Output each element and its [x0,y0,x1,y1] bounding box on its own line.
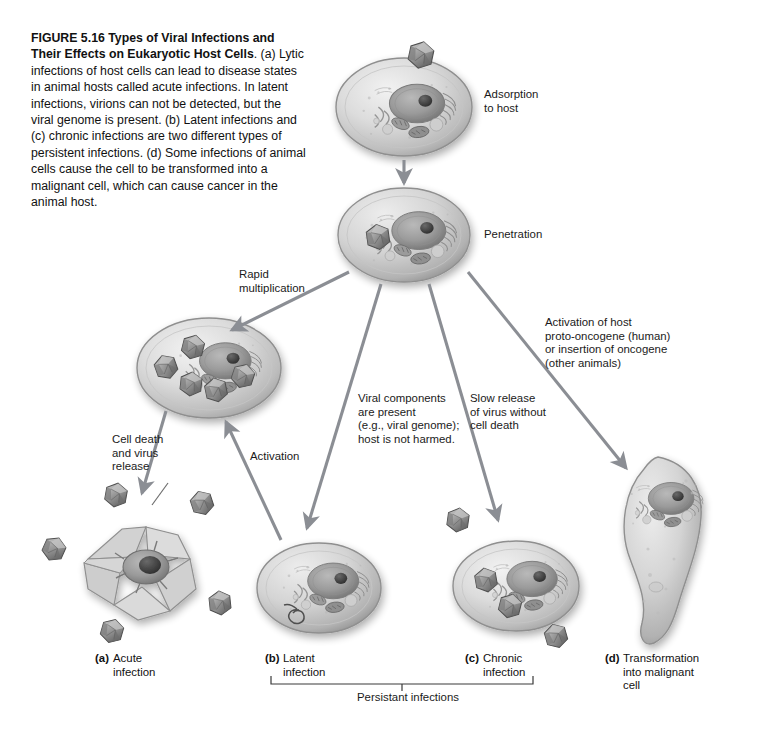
figure-body-text: . (a) Lytic infections of host cells can… [31,47,306,209]
panel-label-b: (b)Latent infection [265,652,325,679]
panel-text-a: Acute infection [113,652,155,679]
label-penetration: Penetration [484,228,542,242]
label-adsorption-to-host: Adsorption to host [484,88,538,115]
label-persistent-infections: Persistant infections [357,691,459,705]
panel-label-c: (c)Chronic infection [465,652,525,679]
virion-adsorbing [407,39,435,70]
panel-label-d: (d)Transformation into malignant cell [605,652,699,693]
cell-penetration [338,188,470,282]
label-activation: Activation [250,450,299,464]
panel-label-a: (a)Acute infection [95,652,155,679]
label-oncogene-activation: Activation of host proto-oncogene (human… [545,316,670,370]
panel-tag-a: (a) [95,652,113,666]
figure-canvas: FIGURE 5.16 Types of Viral Infections an… [0,0,759,733]
virion-released-cluster [40,481,232,645]
label-cell-death-virus-release: Cell death and virus release [112,433,163,474]
panel-text-d: Transformation into malignant cell [623,652,699,693]
panel-tag-c: (c) [465,652,483,666]
cell-lysed-acute [40,481,232,645]
label-rapid-multiplication: Rapid multiplication [239,268,305,295]
panel-tag-b: (b) [265,652,283,666]
viral-genome-loop [284,605,304,624]
leader-cell-death [152,483,168,505]
label-slow-release: Slow release of virus without cell death [470,392,546,433]
cell-chronic [446,507,579,651]
cell-adsorption [336,39,472,156]
panel-text-c: Chronic infection [483,652,525,679]
cell-latent [257,543,381,633]
cell-rapid-multiplication [137,318,281,418]
label-viral-components: Viral components are present (e.g., vira… [358,392,459,446]
virion-cluster-multiplying [152,333,256,404]
figure-caption: FIGURE 5.16 Types of Viral Infections an… [31,30,307,210]
virion-penetrating [365,223,390,251]
panel-text-b: Latent infection [283,652,325,679]
virion-chronic-cluster [446,507,569,651]
panel-tag-d: (d) [605,652,623,666]
arrow-latent-activation [226,422,281,540]
cell-malignant [624,457,703,644]
figure-number: FIGURE 5.16 [31,31,105,45]
